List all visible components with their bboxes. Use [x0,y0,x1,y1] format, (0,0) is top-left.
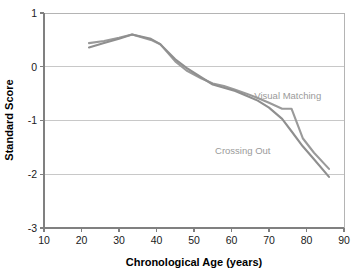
series-line [89,35,329,177]
data-series [89,35,329,177]
x-tick-label: 30 [113,234,125,246]
chart-figure: 102030405060708090 10-1-2-3 Visual Match… [0,0,354,273]
y-tick-label: 0 [31,61,37,73]
x-tick-label: 10 [38,234,50,246]
y-tick-label: -3 [28,222,37,234]
x-tick-label: 80 [301,234,313,246]
series-label: Crossing Out [215,145,271,156]
x-tick-label: 50 [188,234,200,246]
y-axis-ticks: 10-1-2-3 [28,7,44,234]
x-tick-label: 60 [226,234,238,246]
y-tick-label: 1 [31,7,37,19]
x-tick-label: 40 [151,234,163,246]
y-tick-label: -2 [28,168,37,180]
line-chart: 102030405060708090 10-1-2-3 Visual Match… [0,0,354,273]
y-axis-title: Standard Score [3,79,15,160]
x-tick-label: 90 [338,234,350,246]
series-label: Visual Matching [254,90,321,101]
x-tick-label: 20 [76,234,88,246]
x-axis-ticks: 102030405060708090 [38,228,350,246]
series-annotations: Visual MatchingCrossing Out [215,90,321,156]
gridlines [44,67,344,175]
y-tick-label: -1 [28,114,37,126]
x-tick-label: 70 [263,234,275,246]
x-axis-title: Chronological Age (years) [126,256,263,268]
series-line [89,35,329,169]
